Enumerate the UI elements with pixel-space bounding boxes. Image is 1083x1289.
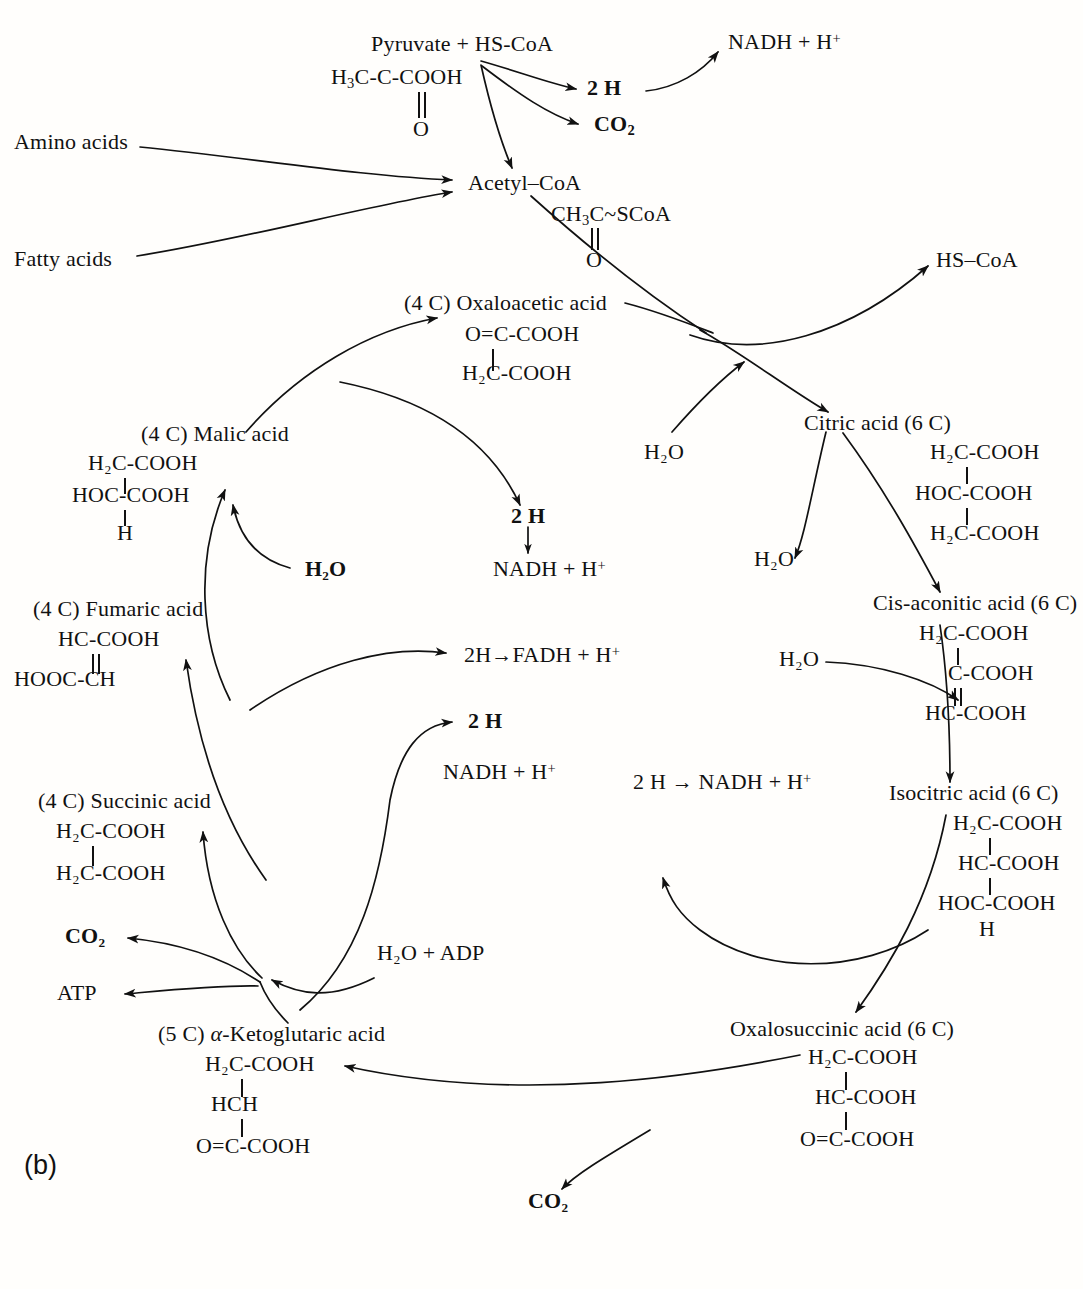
malic-acid-structure-line-3: H bbox=[117, 522, 133, 544]
isocitric-structure-line-1: H₂C-COOH bbox=[953, 812, 1063, 834]
malic-acid-structure-line-2: HOC-COOH bbox=[72, 484, 190, 506]
oxalosuccinic-acid-label: Oxalosuccinic acid (6 C) bbox=[730, 1018, 954, 1040]
cis-aconitic-acid-label: Cis-aconitic acid (6 C) bbox=[873, 592, 1077, 614]
malic-acid-structure-line-1: H₂C-COOH bbox=[88, 452, 198, 474]
co2-output-oxalosuccinate-label: CO₂ bbox=[528, 1190, 568, 1212]
citric-acid-structure-line-1: H₂C-COOH bbox=[930, 441, 1040, 463]
pyruvate-co2-label: CO2 bbox=[594, 113, 635, 138]
fumaric-acid-label: (4 C) Fumaric acid bbox=[33, 598, 203, 620]
alpha-ketoglutaric-structure-line-3: O=C-COOH bbox=[196, 1135, 310, 1157]
alpha-ketoglutaric-acid-label: (5 C) α-Ketoglutaric acid bbox=[158, 1023, 385, 1045]
pyruvate-carbonyl-oxygen: O bbox=[413, 118, 429, 140]
fumaric-acid-structure-line-1: HC-COOH bbox=[58, 628, 160, 650]
amino-acids-label: Amino acids bbox=[14, 131, 128, 153]
aconitase-water-in-label: H₂O bbox=[779, 648, 819, 670]
succinate-nadh-label: NADH + H+ bbox=[443, 761, 556, 783]
oxaloacetic-acid-structure-line-1: O=C-COOH bbox=[465, 323, 579, 345]
pyruvate-label: Pyruvate + HS-CoA bbox=[371, 33, 553, 55]
oxaloacetic-acid-label: (4 C) Oxaloacetic acid bbox=[404, 292, 607, 314]
isocitric-structure-line-2: HC-COOH bbox=[958, 852, 1060, 874]
pyruvate-formula: H3C-C-COOH bbox=[331, 66, 463, 91]
isocitrate-nadh-reaction-label: 2 H → NADH + H+ bbox=[633, 771, 811, 793]
succinate-two-h-label: 2 H bbox=[468, 710, 502, 732]
oxaloacetic-acid-structure-line-2: H₂C-COOH bbox=[462, 362, 572, 384]
cis-aconitic-structure-line-1: H₂C-COOH bbox=[919, 622, 1029, 644]
succinic-acid-structure-line-2: H₂C-COOH bbox=[56, 862, 166, 884]
malate-nadh-label: NADH + H+ bbox=[493, 558, 606, 580]
krebs-cycle-figure: Pyruvate + HS-CoA H3C-C-COOH O 2 H CO2 N… bbox=[0, 0, 1083, 1289]
citric-acid-structure-line-3: H₂C-COOH bbox=[930, 522, 1040, 544]
acetyl-coa-formula: CH3C~SCoA bbox=[551, 203, 671, 228]
isocitric-structure-line-3: HOC-COOH bbox=[938, 892, 1056, 914]
succinic-acid-label: (4 C) Succinic acid bbox=[38, 790, 211, 812]
oxalosuccinic-structure-line-2: HC-COOH bbox=[815, 1086, 917, 1108]
isocitric-acid-label: Isocitric acid (6 C) bbox=[889, 782, 1059, 804]
alpha-ketoglutaric-structure-line-1: H₂C-COOH bbox=[205, 1053, 315, 1075]
co2-output-succinyl-label: CO₂ bbox=[65, 925, 105, 947]
top-nadh-label: NADH + H+ bbox=[728, 31, 841, 53]
atp-output-label: ATP bbox=[57, 982, 97, 1004]
oxalosuccinic-structure-line-3: O=C-COOH bbox=[800, 1128, 914, 1150]
pyruvate-double-bond-1 bbox=[418, 92, 420, 118]
aconitase-water-out-label: H₂O bbox=[754, 548, 794, 570]
alpha-ketoglutaric-structure-line-2: HCH bbox=[211, 1093, 258, 1115]
acetyl-carbonyl-oxygen: O bbox=[586, 249, 602, 271]
fatty-acids-label: Fatty acids bbox=[14, 248, 112, 270]
acetyl-coa-label: Acetyl–CoA bbox=[468, 172, 581, 194]
malate-two-h-label: 2 H bbox=[511, 505, 545, 527]
oxalosuccinic-structure-line-1: H₂C-COOH bbox=[808, 1046, 918, 1068]
fumarase-water-label: H₂O bbox=[305, 558, 346, 580]
pyruvate-two-h-label: 2 H bbox=[587, 77, 621, 99]
panel-letter-b: (b) bbox=[24, 1150, 57, 1181]
fumaric-acid-structure-line-2: HOOC-CH bbox=[14, 668, 116, 690]
h2o-adp-input-label: H₂O + ADP bbox=[377, 942, 484, 964]
cis-aconitic-structure-line-3: HC-COOH bbox=[925, 702, 1027, 724]
malic-acid-label: (4 C) Malic acid bbox=[141, 423, 289, 445]
hs-coa-output-label: HS–CoA bbox=[936, 249, 1018, 271]
succinic-acid-structure-line-1: H₂C-COOH bbox=[56, 820, 166, 842]
citric-acid-structure-line-2: HOC-COOH bbox=[915, 482, 1033, 504]
fadh-reaction-label: 2H→FADH + H+ bbox=[464, 644, 620, 666]
isocitric-structure-line-4: H bbox=[979, 918, 995, 940]
pyruvate-double-bond-2 bbox=[424, 92, 426, 118]
cis-aconitic-structure-line-2: C-COOH bbox=[948, 662, 1034, 684]
citric-acid-label: Citric acid (6 C) bbox=[804, 412, 951, 434]
acetyl-condensation-water-label: H₂O bbox=[644, 441, 684, 463]
